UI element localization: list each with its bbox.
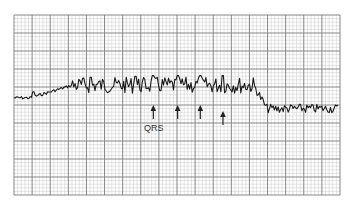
qrs-label: QRS (144, 123, 164, 133)
ecg-strip: QRS (0, 0, 354, 212)
arrow-head-icon (220, 111, 226, 117)
arrow-head-icon (175, 105, 181, 111)
qrs-arrows (151, 105, 226, 125)
